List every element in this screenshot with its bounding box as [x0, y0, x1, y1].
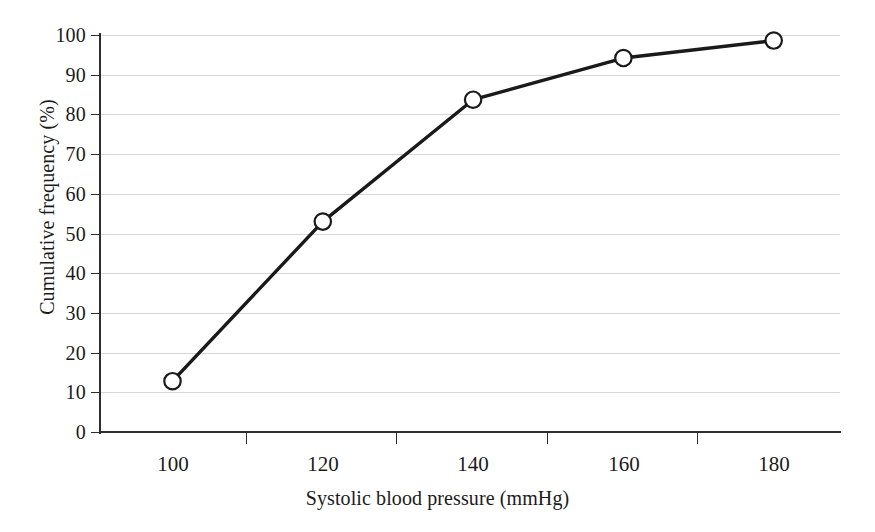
chart-figure: 100 90 80 70 60 50 40 30 20 10 0 100 120… — [0, 0, 875, 532]
data-point-100 — [164, 373, 180, 389]
data-point-180 — [766, 32, 782, 48]
data-point-markers — [164, 32, 782, 389]
y-axis-title-wrap: Cumulative frequency (%) — [35, 67, 59, 347]
x-axis-title: Systolic blood pressure (mmHg) — [0, 486, 875, 510]
data-series-layer — [0, 0, 875, 532]
data-point-120 — [315, 213, 331, 229]
data-point-160 — [615, 50, 631, 66]
data-point-140 — [465, 92, 481, 108]
y-axis-title: Cumulative frequency (%) — [35, 67, 59, 347]
